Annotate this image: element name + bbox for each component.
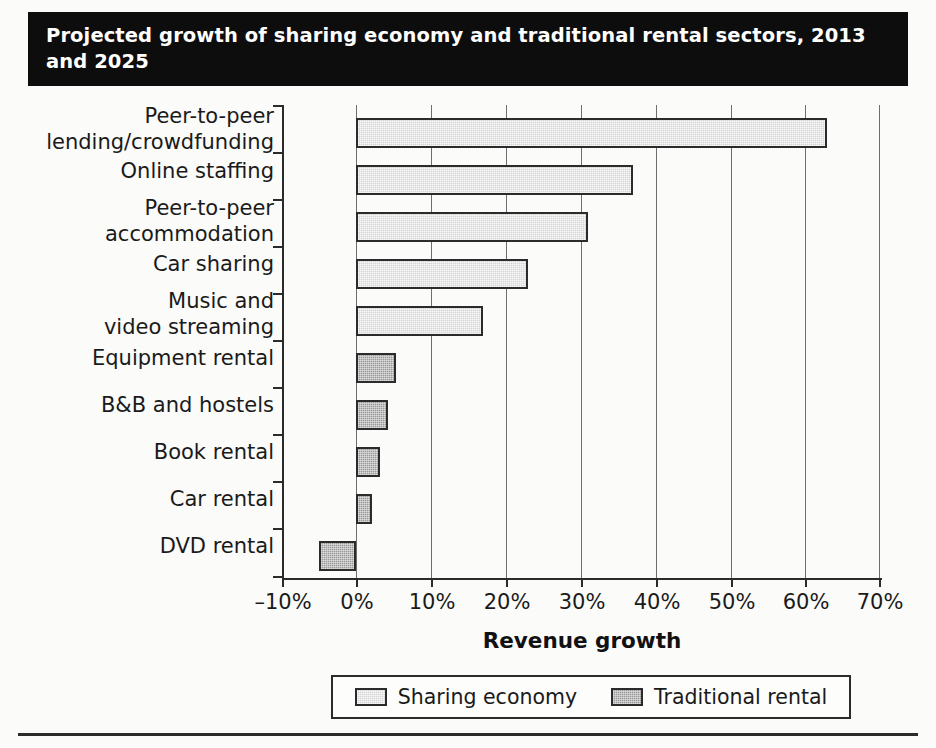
xtick-label-6: 50% — [692, 590, 772, 614]
xtick-label-2: 10% — [392, 590, 472, 614]
xtick-label-7: 60% — [766, 590, 846, 614]
xtick-label-5: 40% — [617, 590, 697, 614]
chart-figure: Projected growth of sharing economy and … — [0, 0, 936, 748]
bar-dvd-rental — [319, 541, 356, 571]
chart-title-bar: Projected growth of sharing economy and … — [28, 12, 908, 86]
bar-car-rental — [356, 494, 372, 524]
category-label-9: DVD rental — [22, 533, 274, 559]
category-tick-6 — [273, 434, 282, 436]
gridline-70pct — [879, 105, 880, 578]
category-label-5: Equipment rental — [22, 345, 274, 371]
category-label-3: Car sharing — [22, 251, 274, 277]
category-tick-1 — [273, 199, 282, 201]
category-tick-9 — [273, 576, 282, 578]
bar-music-video-streaming — [356, 306, 483, 336]
bar-book-rental — [356, 447, 380, 477]
category-label-4: Music and video streaming — [22, 288, 274, 340]
bar-peer-to-peer-accommodation — [356, 212, 588, 242]
category-tick-3 — [273, 293, 282, 295]
category-tick-7 — [273, 481, 282, 483]
xtick-mark-5 — [656, 578, 658, 587]
xtick-label-8: 70% — [840, 590, 920, 614]
legend-item-sharing-economy: Sharing economy — [355, 685, 577, 709]
category-axis-labels: Peer-to-peer lending/crowdfunding Online… — [22, 105, 274, 578]
xtick-mark-8 — [879, 578, 881, 587]
bar-car-sharing — [356, 259, 528, 289]
xtick-label-4: 30% — [542, 590, 622, 614]
category-tick-0 — [273, 152, 282, 154]
gridline-50pct — [731, 105, 732, 578]
category-label-2: Peer-to-peer accommodation — [22, 195, 274, 247]
xtick-label-1: 0% — [317, 590, 397, 614]
legend-label-traditional-rental: Traditional rental — [654, 685, 827, 709]
page-title: Projected growth of sharing economy and … — [46, 23, 890, 75]
xtick-mark-6 — [731, 578, 733, 587]
category-tick-4 — [273, 340, 282, 342]
gridline-60pct — [805, 105, 806, 578]
xtick-mark-7 — [805, 578, 807, 587]
xtick-label-3: 20% — [467, 590, 547, 614]
xtick-label-0: –10% — [243, 590, 323, 614]
chart-legend: Sharing economy Traditional rental — [331, 675, 851, 719]
axis-left-spine — [282, 105, 284, 578]
xtick-mark-4 — [581, 578, 583, 587]
category-tick-top — [273, 105, 282, 107]
legend-swatch-icon-traditional-rental — [611, 688, 643, 706]
legend-swatch-icon-sharing-economy — [355, 688, 387, 706]
legend-item-traditional-rental: Traditional rental — [611, 685, 827, 709]
bar-peer-to-peer-lending — [356, 118, 827, 148]
xtick-mark-1 — [356, 578, 358, 587]
gridline-40pct — [656, 105, 657, 578]
xtick-mark-3 — [506, 578, 508, 587]
category-tick-5 — [273, 387, 282, 389]
value-axis-title: Revenue growth — [282, 628, 882, 653]
footer-divider — [18, 733, 918, 736]
bar-equipment-rental — [356, 353, 396, 383]
xtick-mark-2 — [431, 578, 433, 587]
category-label-0: Peer-to-peer lending/crowdfunding — [22, 103, 274, 155]
plot-area — [282, 105, 880, 578]
category-label-1: Online staffing — [22, 158, 274, 184]
bar-online-staffing — [356, 165, 633, 195]
xtick-mark-0 — [282, 578, 284, 587]
bar-bnb-and-hostels — [356, 400, 388, 430]
category-label-8: Car rental — [22, 486, 274, 512]
category-label-7: Book rental — [22, 439, 274, 465]
category-tick-8 — [273, 528, 282, 530]
legend-label-sharing-economy: Sharing economy — [398, 685, 577, 709]
category-label-6: B&B and hostels — [22, 392, 274, 418]
category-tick-2 — [273, 246, 282, 248]
